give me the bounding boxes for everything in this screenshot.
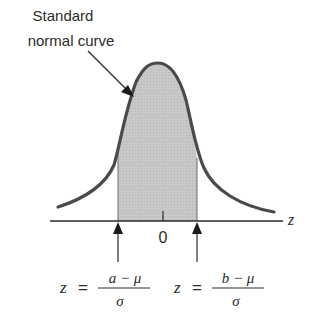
curve-label-line1: Standard [33,7,94,24]
standard-normal-diagram: z 0 Standard normal curve z = a − μ σ z … [0,0,310,317]
shaded-area [118,63,197,221]
curve-label-line2: normal curve [28,32,115,49]
left-formula-lhs: z [59,278,67,297]
left-formula-equals: = [78,278,88,297]
axis-variable-label: z [287,211,295,228]
zero-tick-label: 0 [159,229,168,246]
right-formula-denominator: σ [232,293,240,309]
left-bound-formula: z = a − μ σ [59,270,150,309]
left-formula-numerator: a − μ [109,270,142,286]
right-formula-lhs: z [173,278,181,297]
right-bound-formula: z = b − μ σ [173,270,264,309]
right-formula-numerator: b − μ [222,270,255,286]
left-bound-arrow-head-icon [113,222,123,234]
right-bound-arrow-head-icon [192,222,202,234]
right-formula-equals: = [192,278,202,297]
left-formula-denominator: σ [116,293,124,309]
callout-arrow-shaft [88,51,128,91]
